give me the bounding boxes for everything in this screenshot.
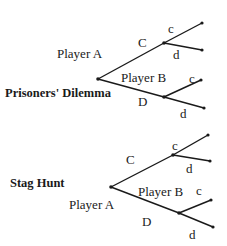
branch-b-d-lower: [179, 213, 213, 227]
decision-node: [171, 153, 175, 157]
terminal-node: [211, 225, 214, 228]
game-title: Stag Hunt: [10, 177, 65, 190]
decision-node: [162, 95, 166, 99]
stag-hunt-tree: [109, 133, 214, 228]
terminal-node: [199, 78, 202, 81]
decision-node: [162, 41, 166, 45]
terminal-node: [209, 198, 212, 201]
player-a-label: Player A: [69, 198, 114, 211]
terminal-node: [206, 133, 209, 136]
move-label-d-lower: d: [189, 228, 196, 241]
move-label-d-upper: d: [173, 48, 180, 61]
branch-b-c-lower: [164, 80, 201, 97]
branch-b-d-upper: [164, 43, 202, 50]
player-a-label: Player A: [57, 47, 102, 60]
game-title: Prisoners' Dilemma: [5, 87, 111, 100]
terminal-node: [200, 48, 203, 51]
move-label-c: C: [138, 36, 147, 49]
move-label-c-lower: c: [189, 72, 195, 85]
terminal-node: [202, 106, 205, 109]
player-b-label: Player B: [138, 185, 183, 198]
decision-node: [177, 211, 181, 215]
branch-b-c-lower: [179, 200, 211, 213]
terminal-node: [208, 159, 211, 162]
move-label-d-lower: d: [180, 107, 187, 120]
root-node: [96, 77, 100, 81]
move-label-d: D: [142, 215, 151, 228]
move-label-c-lower: c: [196, 184, 202, 197]
branch-b-c-upper: [173, 135, 208, 155]
move-label-c-upper: c: [172, 139, 178, 152]
branch-a-c: [111, 155, 173, 187]
move-label-d: D: [138, 95, 147, 108]
move-label-c: C: [126, 153, 135, 166]
terminal-node: [200, 21, 203, 24]
player-b-label: Player B: [121, 71, 166, 84]
root-node: [109, 185, 113, 189]
move-label-d-upper: d: [186, 162, 193, 175]
move-label-c-upper: c: [168, 22, 174, 35]
prisoners-dilemma-tree: [96, 21, 205, 109]
